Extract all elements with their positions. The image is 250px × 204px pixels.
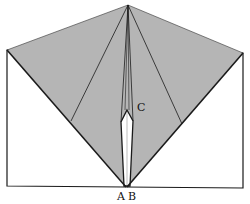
fold-diagram: C A B [0, 0, 250, 204]
label-b: B [128, 190, 136, 203]
label-c: C [137, 101, 145, 114]
label-a: A [116, 190, 126, 203]
